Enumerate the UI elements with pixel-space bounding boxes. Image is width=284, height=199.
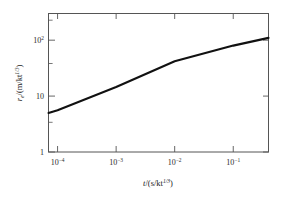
ytick-1-mantissa: 10 [36, 92, 44, 101]
xtick-2-exponent: −2 [176, 157, 182, 163]
xtick-3-exponent: −1 [234, 157, 240, 163]
y-axis-title-open: /(m/kt [14, 74, 24, 95]
xtick-0-exponent: −4 [59, 157, 65, 163]
figure-container: 10−4 10−3 10−2 10−1 1 10 102 [0, 0, 284, 199]
svg-text:10: 10 [36, 92, 44, 101]
x-axis-title-open: /(s/kt [145, 178, 163, 188]
xtick-0-mantissa: 10 [51, 158, 59, 167]
y-axis-title-close: ) [14, 65, 24, 68]
xtick-3-mantissa: 10 [226, 158, 234, 167]
svg-text:1: 1 [40, 148, 44, 157]
x-axis-title-close: ) [170, 178, 173, 188]
xtick-1-exponent: −3 [117, 157, 123, 163]
log-log-line-chart: 10−4 10−3 10−2 10−1 1 10 102 [0, 0, 284, 199]
xtick-1-mantissa: 10 [109, 158, 117, 167]
ytick-2-mantissa: 10 [33, 36, 41, 45]
xtick-2-mantissa: 10 [168, 158, 176, 167]
ytick-0-mantissa: 1 [40, 148, 44, 157]
ytick-2-exponent: 2 [41, 35, 44, 41]
